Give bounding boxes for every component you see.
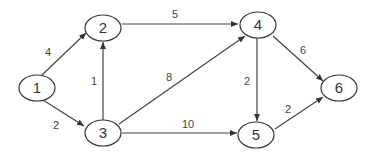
svg-text:2: 2: [99, 19, 107, 36]
node-5: 5: [238, 122, 274, 148]
weight-2-4: 5: [172, 8, 178, 20]
weight-3-4: 8: [166, 71, 172, 83]
edge-3-4: [119, 36, 245, 124]
weight-5-6: 2: [285, 103, 291, 115]
svg-text:5: 5: [252, 126, 260, 143]
node-2: 2: [85, 15, 121, 41]
weight-4-5: 2: [244, 75, 250, 87]
weight-4-6: 6: [300, 44, 306, 56]
weight-3-2: 1: [91, 75, 97, 87]
node-1: 1: [19, 75, 55, 101]
svg-text:1: 1: [33, 79, 41, 96]
edges: [42, 24, 323, 133]
svg-text:4: 4: [254, 16, 262, 33]
node-3: 3: [85, 120, 121, 146]
weight-3-5: 10: [182, 118, 194, 130]
node-6: 6: [321, 75, 357, 101]
weight-1-3: 2: [53, 119, 59, 131]
svg-text:3: 3: [99, 124, 107, 141]
edge-4-6: [273, 36, 323, 81]
edge-1-3: [43, 100, 84, 126]
node-4: 4: [240, 12, 276, 38]
graph-svg: 4 2 1 5 8 10 2 6 2 1 2 3 4 5: [0, 0, 375, 155]
weight-1-2: 4: [45, 46, 51, 58]
graph-diagram: 4 2 1 5 8 10 2 6 2 1 2 3 4 5: [0, 0, 375, 155]
svg-text:6: 6: [335, 79, 343, 96]
edge-5-6: [275, 97, 323, 129]
